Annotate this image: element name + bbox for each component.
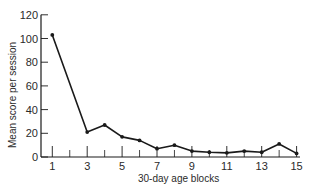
x-tick-label: 13: [256, 160, 268, 172]
x-tick-label: 1: [49, 160, 55, 172]
y-tick-label: 20: [26, 127, 38, 139]
x-tick-label: 7: [154, 160, 160, 172]
line-chart: 020406080100120 13579111315 30-day age b…: [0, 0, 313, 193]
data-point-marker: [242, 149, 246, 153]
x-tick-label: 11: [221, 160, 232, 172]
data-point-marker: [103, 123, 107, 127]
data-point-marker: [138, 139, 142, 143]
data-point-marker: [50, 33, 54, 37]
x-axis: 13579111315: [41, 146, 303, 172]
y-tick-label: 120: [20, 9, 38, 21]
y-tick-label: 0: [32, 151, 38, 163]
y-axis: 020406080100120: [20, 9, 48, 163]
y-tick-label: 100: [20, 33, 38, 45]
data-series: [50, 33, 298, 155]
data-point-marker: [260, 150, 264, 154]
x-tick-label: 15: [290, 160, 302, 172]
data-point-marker: [155, 147, 159, 151]
x-tick-label: 9: [189, 160, 195, 172]
y-tick-label: 60: [26, 80, 38, 92]
data-point-marker: [225, 151, 229, 155]
x-tick-label: 5: [119, 160, 125, 172]
data-point-marker: [85, 130, 89, 134]
x-tick-label: 3: [84, 160, 90, 172]
data-point-marker: [120, 135, 124, 139]
data-point-marker: [295, 152, 299, 156]
y-tick-label: 80: [26, 56, 38, 68]
y-axis-label: Mean score per session: [7, 42, 18, 148]
y-tick-label: 40: [26, 104, 38, 116]
data-point-marker: [173, 143, 177, 147]
data-point-marker: [207, 150, 211, 154]
data-point-marker: [277, 142, 281, 146]
x-axis-label: 30-day age blocks: [138, 173, 219, 184]
data-point-marker: [190, 149, 194, 153]
series-line: [52, 35, 296, 153]
